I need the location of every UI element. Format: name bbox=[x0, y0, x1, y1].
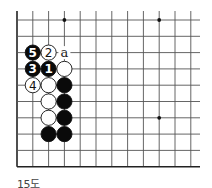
stone-body bbox=[57, 127, 72, 142]
black-stone bbox=[57, 94, 72, 109]
black-stone bbox=[57, 110, 72, 125]
move-number: 2 bbox=[45, 46, 53, 60]
white-stone-2: 2 bbox=[41, 45, 56, 60]
black-stone-5: 5 bbox=[25, 45, 40, 60]
black-stone bbox=[41, 127, 56, 142]
black-stone-3: 3 bbox=[25, 61, 40, 76]
diagram-caption: 15도 bbox=[17, 175, 40, 188]
stone-body bbox=[41, 110, 56, 125]
white-stone bbox=[41, 110, 56, 125]
stone-body bbox=[41, 127, 56, 142]
white-stone bbox=[41, 94, 56, 109]
move-number: 4 bbox=[29, 79, 37, 93]
stone-body bbox=[41, 78, 56, 93]
black-stone bbox=[57, 127, 72, 142]
hoshi-point bbox=[157, 18, 161, 22]
white-stone-4: 4 bbox=[25, 78, 40, 93]
move-number: 1 bbox=[44, 62, 52, 76]
white-stone bbox=[41, 78, 56, 93]
white-stone bbox=[57, 61, 72, 76]
black-stone-1: 1 bbox=[41, 61, 56, 76]
hoshi-point bbox=[157, 116, 161, 120]
stone-body bbox=[41, 94, 56, 109]
move-number: 5 bbox=[29, 46, 37, 60]
board-markers: a bbox=[58, 45, 70, 60]
stone-body bbox=[57, 94, 72, 109]
go-board: a 52314 bbox=[0, 0, 212, 170]
point-label-a: a bbox=[61, 45, 69, 60]
black-stone bbox=[57, 78, 72, 93]
hoshi-point bbox=[63, 18, 67, 22]
stone-body bbox=[57, 61, 72, 76]
stone-body bbox=[57, 78, 72, 93]
stone-body bbox=[57, 110, 72, 125]
move-number: 3 bbox=[29, 62, 37, 76]
